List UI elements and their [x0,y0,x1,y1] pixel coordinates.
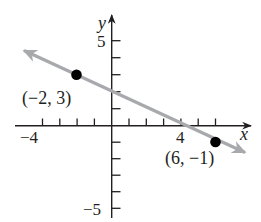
y-axis-ticks [112,41,121,209]
y-tick-label-5: 5 [97,32,106,51]
coordinate-graph: −4 4 x 5 −5 y (−2, 3) (6, −1) [0,0,261,222]
y-tick-label-neg5: −5 [83,200,101,219]
point-6-neg1 [210,137,221,148]
point-label-6-neg1: (6, −1) [165,148,214,169]
y-axis-label: y [96,13,106,33]
point-neg2-3 [71,70,82,81]
point-label-neg2-3: (−2, 3) [22,88,71,109]
x-tick-label-neg4: −4 [20,128,39,147]
x-axis-label: x [239,124,248,144]
x-tick-label-4: 4 [176,128,185,147]
x-axis-ticks [43,119,216,126]
y-axis: 5 −5 y [83,13,121,219]
